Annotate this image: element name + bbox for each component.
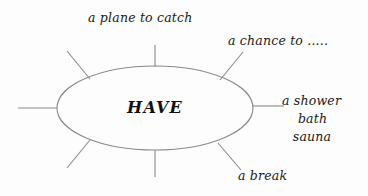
label-shower-line-2: bath — [284, 110, 341, 128]
label-a-break: a break — [238, 168, 287, 184]
word-web-diagram: HAVE a plane to catch a chance to ..... … — [0, 0, 368, 196]
spoke-upper-left — [67, 51, 90, 79]
label-shower-line-3: sauna — [283, 128, 341, 146]
label-shower-bath-sauna: a shower bath sauna — [282, 92, 341, 146]
spoke-lower-right — [218, 143, 241, 170]
spoke-lower-left — [67, 140, 90, 168]
label-shower-line-1: a shower — [282, 93, 341, 108]
center-term: HAVE — [0, 98, 310, 117]
spoke-upper-right — [220, 52, 243, 80]
label-a-plane-to-catch: a plane to catch — [88, 10, 193, 26]
label-a-chance-to: a chance to ..... — [228, 33, 328, 49]
